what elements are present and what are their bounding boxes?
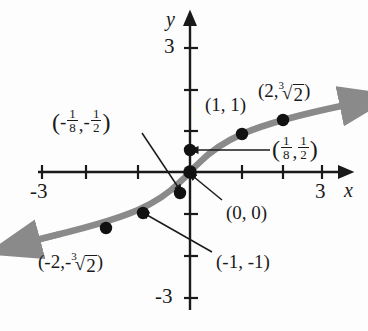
open-paren: (: [52, 110, 60, 134]
y-axis-variable-label: y: [166, 9, 175, 29]
open-paren: (: [272, 137, 280, 161]
denominator: 2: [91, 120, 102, 134]
numerator: 1: [67, 107, 78, 120]
close-paren: ): [102, 110, 110, 134]
x-axis-variable-label: x: [344, 180, 353, 200]
radical-index: 3: [71, 251, 77, 262]
fraction-one-half: 12: [91, 107, 102, 135]
point-label-neg2-negcbrt2: (-2,-3√2): [38, 252, 103, 274]
denominator: 8: [281, 147, 292, 161]
leader-line-neg1-neg1: [147, 215, 212, 252]
point-label-1-1: (1, 1): [205, 95, 246, 114]
label-prefix: (2,: [258, 80, 279, 101]
x-axis-min-label: -3: [30, 181, 48, 202]
x-axis-max-label: 3: [315, 181, 326, 202]
point-label-neg1-neg1: (-1, -1): [216, 252, 270, 271]
close-paren: ): [310, 137, 318, 161]
label-suffix: ): [304, 80, 310, 101]
label-prefix: (-2,-: [38, 251, 71, 272]
numerator: 1: [91, 107, 102, 120]
cube-root-symbol: 3√2: [279, 83, 304, 103]
comma: ,: [293, 142, 298, 163]
data-point-neg-eighth-neg-half: [174, 187, 186, 199]
minus-sign-1: -: [60, 112, 66, 131]
radicand: 2: [85, 255, 97, 275]
data-point-0-0: [183, 165, 197, 179]
fraction-one-eighth: 18: [281, 134, 292, 162]
radical-index: 3: [279, 80, 285, 91]
cube-root-graph-figure: [0, 0, 368, 331]
point-label-2-cbrt2: (2,3√2): [258, 81, 310, 103]
y-axis-max-label: 3: [164, 36, 175, 57]
radicand: 2: [293, 84, 305, 104]
data-point-1-1: [236, 128, 248, 140]
cube-root-symbol: 3√2: [71, 254, 96, 274]
denominator: 2: [298, 147, 309, 161]
leader-line-origin: [194, 177, 222, 200]
numerator: 1: [298, 134, 309, 147]
fraction-one-half: 12: [298, 134, 309, 162]
label-suffix: ): [97, 251, 103, 272]
data-point-2-cbrt2: [277, 114, 289, 126]
numerator: 1: [281, 134, 292, 147]
curve-left-arrow: [34, 234, 60, 241]
data-point-eighth-half: [184, 144, 196, 156]
denominator: 8: [67, 120, 78, 134]
point-label-eighth-half: (18,12): [272, 135, 318, 163]
leader-line-neg-eighth: [142, 133, 178, 187]
data-point-neg1-neg1: [137, 207, 149, 219]
minus-sign-2: -: [84, 112, 90, 131]
fraction-one-eighth: 18: [67, 107, 78, 135]
data-point-neg2-negcbrt2: [100, 222, 112, 234]
point-label-0-0: (0, 0): [226, 203, 267, 222]
y-axis-min-label: -3: [155, 286, 173, 307]
point-label-neg-eighth-neg-half: (-18,-12): [52, 108, 110, 136]
